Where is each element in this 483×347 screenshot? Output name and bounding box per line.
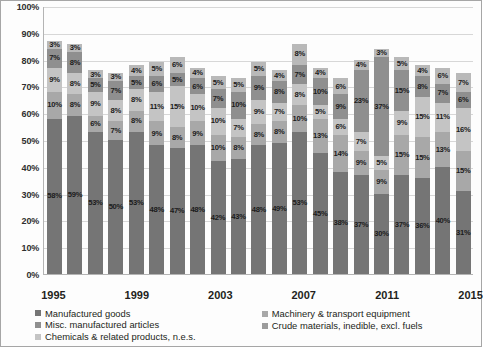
bar[interactable]: 50%7%8%7%3% <box>108 73 123 274</box>
bar-segment[interactable]: 8% <box>67 52 82 73</box>
bar-segment[interactable]: 6% <box>456 92 471 108</box>
bar-segment[interactable]: 13% <box>435 132 450 167</box>
bar-segment[interactable]: 8% <box>292 84 307 105</box>
bar-segment[interactable]: 9% <box>374 170 389 194</box>
bar-segment[interactable]: 8% <box>129 89 144 110</box>
bar[interactable]: 58%10%9%7%3% <box>47 41 62 274</box>
bar-segment[interactable]: 10% <box>190 94 205 121</box>
bar-segment[interactable]: 10% <box>211 108 226 135</box>
bar-segment[interactable]: 3% <box>67 44 82 52</box>
bar-segment[interactable]: 6% <box>88 116 103 132</box>
bar-segment[interactable]: 8% <box>67 73 82 94</box>
bar-segment[interactable]: 4% <box>415 65 430 76</box>
bar-segment[interactable]: 40% <box>435 167 450 274</box>
bar-segment[interactable]: 10% <box>313 78 328 105</box>
bar[interactable]: 53%8%8%5%4% <box>129 65 144 274</box>
bar-segment[interactable]: 15% <box>170 86 185 126</box>
bar-segment[interactable]: 10% <box>231 92 246 119</box>
bar-segment[interactable]: 4% <box>313 68 328 79</box>
bar-segment[interactable]: 3% <box>374 49 389 57</box>
bar-segment[interactable]: 5% <box>170 73 185 86</box>
bar-segment[interactable]: 8% <box>415 76 430 97</box>
bar-segment[interactable]: 5% <box>374 156 389 169</box>
bar-segment[interactable]: 9% <box>394 111 409 135</box>
bar-segment[interactable]: 8% <box>251 124 266 145</box>
bar-segment[interactable]: 9% <box>149 121 164 145</box>
bar[interactable]: 30%9%5%37%3% <box>374 49 389 274</box>
bar-segment[interactable]: 42% <box>211 161 226 274</box>
bar-segment[interactable]: 3% <box>88 70 103 78</box>
bar-segment[interactable]: 45% <box>313 153 328 274</box>
bar[interactable]: 31%15%16%6%7% <box>456 73 471 274</box>
bar-segment[interactable]: 23% <box>354 70 369 132</box>
bar-segment[interactable]: 38% <box>333 172 348 274</box>
bar-segment[interactable]: 6% <box>170 57 185 73</box>
bar-segment[interactable]: 50% <box>108 140 123 274</box>
bar-segment[interactable]: 11% <box>435 103 450 132</box>
bar-segment[interactable]: 47% <box>170 148 185 274</box>
bar-segment[interactable]: 5% <box>211 76 226 89</box>
bar-segment[interactable]: 5% <box>394 57 409 70</box>
bar-segment[interactable]: 49% <box>272 143 287 274</box>
bar-segment[interactable]: 53% <box>88 132 103 274</box>
bar-segment[interactable]: 7% <box>435 84 450 103</box>
bar-segment[interactable]: 7% <box>108 121 123 140</box>
bar-segment[interactable]: 43% <box>231 159 246 274</box>
bar-segment[interactable]: 6% <box>333 119 348 135</box>
bar-segment[interactable]: 31% <box>456 191 471 274</box>
bar-segment[interactable]: 37% <box>374 57 389 156</box>
bar-segment[interactable]: 7% <box>47 49 62 68</box>
bar-segment[interactable]: 48% <box>149 145 164 274</box>
bar-segment[interactable]: 9% <box>88 92 103 116</box>
bar[interactable]: 47%8%15%5%6% <box>170 57 185 274</box>
bar-segment[interactable]: 6% <box>333 78 348 94</box>
bar-segment[interactable]: 7% <box>456 73 471 92</box>
legend-item[interactable]: Manufactured goods <box>35 308 256 319</box>
bar-segment[interactable]: 7% <box>231 119 246 138</box>
bar-segment[interactable]: 37% <box>354 175 369 274</box>
bar-segment[interactable]: 8% <box>292 44 307 65</box>
bar-segment[interactable]: 8% <box>272 81 287 102</box>
bar-segment[interactable]: 48% <box>251 145 266 274</box>
bar-segment[interactable]: 8% <box>108 100 123 121</box>
bar-segment[interactable]: 13% <box>313 119 328 154</box>
bar-segment[interactable]: 7% <box>272 103 287 122</box>
bar-segment[interactable]: 9% <box>47 68 62 92</box>
bar-segment[interactable]: 4% <box>272 70 287 81</box>
bar[interactable]: 42%10%10%7%5% <box>211 76 226 274</box>
bar[interactable]: 37%9%7%23%4% <box>354 60 369 274</box>
bar-segment[interactable]: 30% <box>374 194 389 274</box>
bar-segment[interactable]: 9% <box>251 100 266 124</box>
bar-segment[interactable]: 3% <box>47 41 62 49</box>
bar[interactable]: 37%15%9%15%5% <box>394 57 409 274</box>
bar[interactable]: 53%6%9%5%3% <box>88 70 103 274</box>
legend-item[interactable]: Crude materials, inedible, excl. fuels <box>262 320 473 331</box>
bar[interactable]: 59%8%8%8%3% <box>67 44 82 274</box>
legend-item[interactable]: Chemicals & related products, n.e.s. <box>35 331 256 342</box>
bar-segment[interactable]: 6% <box>435 68 450 84</box>
bar-segment[interactable]: 7% <box>108 81 123 100</box>
bar-segment[interactable]: 6% <box>190 78 205 94</box>
bar-segment[interactable]: 4% <box>129 65 144 76</box>
bar-segment[interactable]: 5% <box>149 62 164 75</box>
bar-segment[interactable]: 10% <box>292 105 307 132</box>
bar-segment[interactable]: 9% <box>333 94 348 118</box>
bar-segment[interactable]: 8% <box>170 127 185 148</box>
bar[interactable]: 53%10%8%7%8% <box>292 44 307 274</box>
bar-segment[interactable]: 5% <box>88 78 103 91</box>
bar[interactable]: 38%14%6%9%6% <box>333 78 348 274</box>
bar-segment[interactable]: 16% <box>456 108 471 151</box>
legend-item[interactable]: Machinery & transport equipment <box>262 308 473 319</box>
bar-segment[interactable]: 4% <box>354 60 369 71</box>
bar-segment[interactable]: 53% <box>129 132 144 274</box>
bar-segment[interactable]: 5% <box>313 105 328 118</box>
bar-segment[interactable]: 7% <box>292 65 307 84</box>
bar-segment[interactable]: 8% <box>231 137 246 158</box>
bar-segment[interactable]: 58% <box>47 119 62 274</box>
bar-segment[interactable]: 7% <box>354 132 369 151</box>
bar[interactable]: 36%15%15%8%4% <box>415 65 430 274</box>
bar-segment[interactable]: 9% <box>251 76 266 100</box>
bar-segment[interactable]: 6% <box>149 76 164 92</box>
bar-segment[interactable]: 8% <box>67 94 82 115</box>
bar[interactable]: 43%8%7%10%5% <box>231 78 246 274</box>
